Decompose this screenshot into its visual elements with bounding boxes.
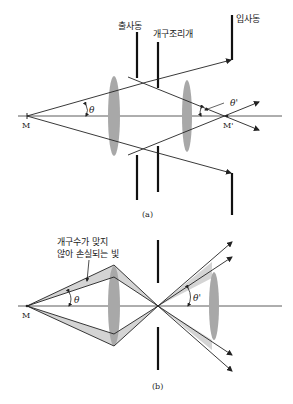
- angle-theta-prime-label-b: θ': [193, 293, 201, 303]
- lens-1-a: [108, 76, 120, 156]
- object-point-dot-b: [26, 305, 29, 308]
- ray-converge-bottom: [128, 102, 259, 155]
- angle-theta-prime-label-a: θ': [230, 98, 238, 108]
- exit-pupil-label: 출사동: [118, 21, 142, 31]
- ray-converge-top: [128, 77, 259, 130]
- angle-arc-theta-prime-a: [200, 108, 201, 116]
- theta-prime-leader: [205, 103, 224, 110]
- ray-out-4-b: [158, 306, 232, 371]
- image-point-label: M': [223, 121, 233, 130]
- ray-upper-a: [27, 82, 147, 116]
- ray-lower-a-ext: [147, 150, 231, 173]
- lost-light-label-line1: 개구수가 맞지: [57, 236, 108, 247]
- angle-theta-label-a: θ: [89, 105, 95, 115]
- angle-arc-theta-a: [86, 105, 88, 116]
- figure-b: M θ θ' 개구수가 맞지 않아 손실되는 빛 (b): [18, 236, 282, 391]
- lens-2-a: [182, 80, 192, 152]
- aperture-stop-label: 개구조리개: [153, 29, 193, 39]
- caption-b: (b): [152, 382, 163, 391]
- ray-lower-a: [27, 116, 147, 150]
- caption-a: (a): [142, 210, 153, 219]
- lens-2-b: [209, 272, 219, 340]
- image-point-dot: [226, 115, 229, 118]
- object-point-label-a: M: [22, 121, 30, 130]
- ray-out-3-b: [158, 306, 232, 355]
- object-point-label-b: M: [22, 311, 30, 320]
- angle-theta-label-b: θ: [74, 295, 80, 305]
- entrance-pupil-label: 입사동: [236, 13, 260, 24]
- lost-light-label-line2: 않아 손실되는 빛: [57, 249, 119, 259]
- figure-a: M M' θ θ' 출사동 개구조리개 입사동 (a): [18, 13, 282, 219]
- ray-upper-a-ext: [147, 60, 231, 82]
- angle-arc-theta-b: [69, 292, 71, 306]
- angle-arc-theta-prime-b: [188, 288, 191, 306]
- optics-diagram: M M' θ θ' 출사동 개구조리개 입사동 (a): [0, 0, 293, 404]
